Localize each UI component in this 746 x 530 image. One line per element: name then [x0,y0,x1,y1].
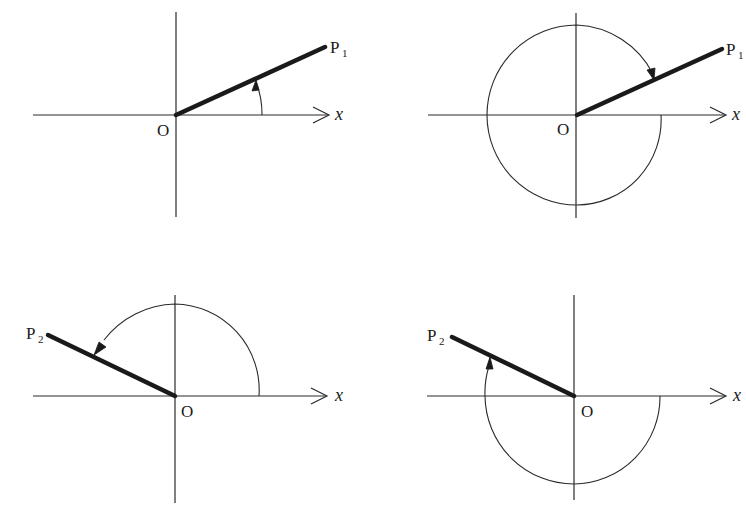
rotation-angle-diagrams: O x P 1 O x P 1 O x P 2 [0,0,746,530]
rotation-arc [485,366,660,484]
point-label: P [330,38,339,57]
point-subscript: 2 [38,333,44,345]
origin-label: O [557,120,569,139]
point-label: P [427,326,436,345]
origin-label: O [181,402,193,421]
x-axis-label: x [334,385,343,405]
origin-label: O [581,402,593,421]
origin-label: O [157,121,169,140]
ray-op2 [452,337,574,396]
ray-op2 [48,335,175,396]
panel-top-right: O x P 1 [428,13,744,218]
x-axis-label: x [732,385,741,405]
x-axis-label: x [731,104,740,124]
point-label: P [26,324,35,343]
panel-bottom-left: O x P 2 [26,295,343,503]
point-subscript: 2 [439,335,445,347]
ray-op1 [176,47,325,115]
point-subscript: 1 [738,49,744,61]
rotation-arc [104,304,259,396]
x-axis-label: x [334,104,343,124]
point-label: P [726,40,735,59]
arc-arrowhead-icon [94,342,106,355]
panel-top-left: O x P 1 [33,12,348,217]
point-subscript: 1 [342,47,348,59]
ray-op1 [577,49,722,115]
panel-bottom-right: O x P 2 [427,295,741,500]
arc-arrowhead-icon [647,68,655,80]
